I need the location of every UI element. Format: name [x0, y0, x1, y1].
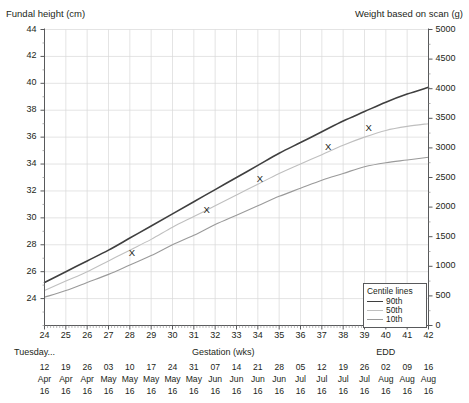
right-axis-tick-4500: 4500	[436, 53, 456, 63]
right-axis-tick-3000: 3000	[436, 142, 456, 152]
measurement-marker-3[interactable]: X	[255, 174, 265, 184]
left-axis-tick-40: 40	[15, 77, 37, 87]
week-tick-42: 42	[417, 330, 441, 340]
measurement-marker-2[interactable]: X	[202, 205, 212, 215]
right-axis-tick-1500: 1500	[436, 231, 456, 241]
left-axis-tick-24: 24	[15, 293, 37, 303]
date-day-42: 16	[417, 362, 441, 372]
caption-strip	[0, 393, 469, 403]
date-month-42: Aug	[417, 374, 441, 384]
legend-item-10th: 10th	[367, 315, 423, 324]
day-of-week-label: Tuesday...	[14, 347, 55, 357]
right-axis-tick-4000: 4000	[436, 83, 456, 93]
fundal-height-growth-chart: Fundal height (cm) Weight based on scan …	[0, 0, 469, 403]
legend-swatch-10th	[367, 319, 383, 320]
right-axis-tick-0: 0	[436, 320, 441, 330]
right-axis-tick-2500: 2500	[436, 172, 456, 182]
left-axis-tick-44: 44	[15, 24, 37, 34]
left-axis-tick-36: 36	[15, 131, 37, 141]
x-axis-title: Gestation (wks)	[192, 347, 255, 357]
measurement-marker-5[interactable]: X	[364, 123, 374, 133]
right-axis-tick-1000: 1000	[436, 260, 456, 270]
left-axis-tick-34: 34	[15, 158, 37, 168]
left-axis-tick-38: 38	[15, 104, 37, 114]
right-axis-tick-2000: 2000	[436, 201, 456, 211]
legend-swatch-50th	[367, 310, 383, 311]
left-axis-tick-42: 42	[15, 50, 37, 60]
left-axis-tick-26: 26	[15, 266, 37, 276]
right-axis-tick-5000: 5000	[436, 24, 456, 34]
legend-label-10th: 10th	[386, 315, 402, 324]
left-axis-tick-30: 30	[15, 212, 37, 222]
left-axis-tick-28: 28	[15, 239, 37, 249]
legend: Centile lines 90th50th10th	[363, 283, 427, 328]
legend-rows: 90th50th10th	[367, 297, 423, 324]
plot-area	[0, 0, 469, 403]
legend-swatch-90th	[367, 301, 383, 302]
edd-label: EDD	[374, 347, 398, 357]
measurement-marker-4[interactable]: X	[323, 142, 333, 152]
legend-title: Centile lines	[367, 286, 423, 296]
measurement-marker-1[interactable]: X	[127, 248, 137, 258]
right-axis-tick-500: 500	[436, 290, 451, 300]
right-axis-tick-3500: 3500	[436, 112, 456, 122]
left-axis-tick-32: 32	[15, 185, 37, 195]
